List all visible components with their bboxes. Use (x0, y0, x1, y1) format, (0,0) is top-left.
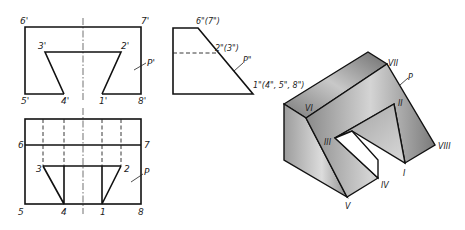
label-2p: 2' (121, 41, 129, 51)
label-plane-p: P (144, 167, 150, 177)
label-6pp-7pp: 6"(7") (196, 17, 220, 26)
front-view: 6' 7' 3' 2' P' 5' 4' 1' 8' (20, 16, 155, 106)
label-4: 4 (61, 207, 67, 217)
label-III: III (324, 138, 332, 147)
right-notch (102, 166, 121, 204)
label-VI: VI (305, 104, 313, 113)
label-8p: 8' (138, 96, 146, 106)
label-II: II (398, 99, 403, 108)
label-3: 3 (36, 164, 42, 174)
label-8: 8 (138, 207, 144, 217)
label-plane-P: P (408, 73, 413, 82)
side-outline (173, 28, 253, 94)
label-1pp-4pp-5pp-8pp: 1"(4", 5", 8") (253, 81, 305, 90)
drawing-canvas: 6' 7' 3' 2' P' 5' 4' 1' 8' 6"(7") 2"(3")… (0, 0, 465, 230)
label-6: 6 (18, 140, 24, 150)
label-VIII: VIII (438, 142, 451, 151)
label-plane-pp: P" (243, 56, 252, 65)
label-1p: 1' (99, 96, 107, 106)
label-2: 2 (124, 164, 130, 174)
isometric-view: VII P II VI III VIII I IV V (284, 52, 451, 211)
label-5p: 5' (21, 96, 29, 106)
label-6p: 6' (20, 16, 28, 26)
top-view: 6 7 3 2 P 5 4 1 8 (18, 108, 150, 217)
label-1: 1 (100, 207, 106, 217)
leader-line (234, 63, 243, 71)
label-4p: 4' (61, 96, 69, 106)
leader-line (134, 63, 146, 70)
label-V: V (345, 202, 351, 211)
label-5: 5 (18, 207, 24, 217)
label-IV: IV (381, 181, 389, 190)
label-2pp-3pp: 2"(3") (215, 44, 239, 53)
label-3p: 3' (38, 41, 46, 51)
left-notch (43, 166, 64, 204)
label-plane-p: P' (147, 58, 155, 68)
label-I: I (403, 169, 406, 178)
label-VII: VII (388, 59, 399, 68)
side-view: 6"(7") 2"(3") P" 1"(4", 5", 8") (173, 17, 305, 94)
label-7p: 7' (141, 16, 149, 26)
leader-line (400, 78, 408, 85)
label-7: 7 (144, 140, 150, 150)
